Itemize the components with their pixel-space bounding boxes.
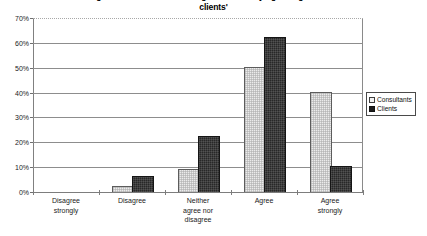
chart-legend: Consultants Clients [366, 92, 416, 116]
x-axis-tick [297, 190, 298, 195]
x-axis-tick [363, 190, 364, 195]
y-axis-tick-label: 0% [19, 189, 29, 196]
legend-label-clients: Clients [377, 105, 397, 112]
bar-clients-1 [132, 176, 154, 192]
bar-group [178, 18, 218, 192]
x-axis-category-label: Disagree strongly [33, 196, 99, 215]
y-axis-tick-label: 70% [15, 15, 29, 22]
chart-figure: Figure 2.5: 'Consultants are good at ide… [0, 0, 427, 236]
y-axis-tick-label: 30% [15, 114, 29, 121]
chart-title: Figure 2.5: 'Consultants are good at ide… [30, 0, 397, 13]
x-axis-category-label: Disagree [99, 196, 165, 206]
y-axis-tick-label: 20% [15, 139, 29, 146]
x-axis-line [33, 192, 363, 193]
y-axis-tick-label: 50% [15, 64, 29, 71]
bar-group [244, 18, 284, 192]
bar-group [310, 18, 350, 192]
x-axis-category-labels: Disagree stronglyDisagreeNeither agree n… [33, 196, 363, 236]
bar-consultants-4 [310, 92, 332, 192]
y-axis-tick-label: 60% [15, 39, 29, 46]
x-axis-category-label: Neither agree nor disagree [165, 196, 231, 225]
bar-group [46, 18, 86, 192]
y-axis-tick-label: 40% [15, 89, 29, 96]
legend-swatch-clients-icon [369, 106, 375, 112]
bars-layer [33, 18, 363, 192]
bar-group [112, 18, 152, 192]
legend-item-consultants: Consultants [369, 95, 412, 104]
legend-swatch-consultants-icon [369, 97, 375, 103]
bar-clients-3 [264, 37, 286, 192]
x-axis-category-label: Agree [231, 196, 297, 206]
bar-consultants-2 [178, 169, 200, 192]
x-axis-tick [99, 190, 100, 195]
bar-clients-2 [198, 136, 220, 192]
plot-area: 70%60%50%40%30%20%10%0% [33, 18, 363, 192]
x-axis-tick [231, 190, 232, 195]
bar-consultants-3 [244, 67, 266, 192]
y-axis-tick-label: 10% [15, 164, 29, 171]
x-axis-tick [33, 190, 34, 195]
x-axis-category-label: Agree strongly [297, 196, 363, 215]
bar-clients-4 [330, 166, 352, 192]
legend-label-consultants: Consultants [377, 96, 412, 103]
legend-item-clients: Clients [369, 104, 412, 113]
x-axis-tick [165, 190, 166, 195]
